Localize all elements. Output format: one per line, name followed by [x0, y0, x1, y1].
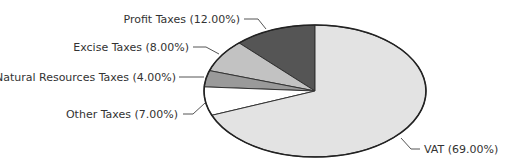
leader-line-profit [244, 19, 266, 29]
pie-slices [204, 25, 426, 157]
leader-line-other [183, 103, 205, 114]
leader-line-excise [193, 47, 219, 54]
label-excise-taxes: Excise Taxes (8.00%) [73, 41, 189, 54]
leader-line-vat [401, 138, 420, 149]
label-other-taxes: Other Taxes (7.00%) [66, 108, 178, 121]
pie-chart: Profit Taxes (12.00%) Excise Taxes (8.00… [0, 0, 510, 166]
label-natural-resources-taxes: Natural Resources Taxes (4.00%) [0, 71, 176, 84]
label-vat: VAT (69.00%) [424, 143, 498, 156]
label-profit-taxes: Profit Taxes (12.00%) [123, 13, 240, 26]
